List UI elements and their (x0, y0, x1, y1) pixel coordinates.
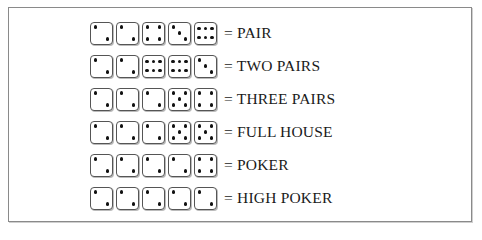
die-face-4-icon (142, 22, 165, 45)
pip (158, 60, 162, 64)
pip (184, 37, 188, 41)
die-face-4-icon (194, 154, 217, 177)
pip (152, 60, 156, 64)
hand-row: = TWO PAIRS (90, 54, 320, 78)
hand-label: = FULL HOUSE (224, 123, 333, 141)
pip (145, 69, 149, 73)
hand-row: = PAIR (90, 21, 272, 45)
die-face-5-icon (168, 88, 191, 111)
die-face-2-icon (142, 88, 165, 111)
die-face-2-icon (194, 187, 217, 210)
hand-row: = FULL HOUSE (90, 120, 333, 144)
pip (132, 202, 136, 206)
pip (120, 25, 124, 29)
pip (158, 136, 162, 140)
pip (198, 103, 202, 107)
pip (94, 91, 98, 95)
pip (210, 136, 214, 140)
pip (158, 103, 162, 107)
die-face-2-icon (90, 22, 113, 45)
die-face-3-icon (194, 55, 217, 78)
pip (172, 91, 176, 95)
die-face-2-icon (116, 154, 139, 177)
die-face-6-icon (194, 22, 217, 45)
pip (184, 124, 188, 128)
pip (204, 130, 208, 134)
die-face-5-icon (168, 121, 191, 144)
pip (198, 157, 202, 161)
hand-label: = TWO PAIRS (224, 57, 320, 75)
pip (210, 157, 214, 161)
pip (184, 169, 188, 173)
pip (146, 190, 150, 194)
pip (120, 157, 124, 161)
die-face-2-icon (90, 121, 113, 144)
pip (197, 27, 201, 31)
pip (106, 37, 110, 41)
pip (210, 36, 214, 40)
die-face-5-icon (194, 121, 217, 144)
hand-row: = POKER (90, 153, 289, 177)
pip (146, 25, 150, 29)
die-face-4-icon (194, 88, 217, 111)
die-face-6-icon (142, 55, 165, 78)
pip (198, 124, 202, 128)
die-face-2-icon (90, 88, 113, 111)
die-face-3-icon (168, 22, 191, 45)
pip (172, 190, 176, 194)
pip (158, 69, 162, 73)
pip (184, 60, 188, 64)
pip (204, 27, 208, 31)
pip (210, 169, 214, 173)
die-face-2-icon (142, 121, 165, 144)
pip (120, 91, 124, 95)
die-face-2-icon (116, 88, 139, 111)
hand-label: = POKER (224, 156, 289, 174)
pip (210, 91, 214, 95)
pip (171, 69, 175, 73)
die-face-6-icon (168, 55, 191, 78)
pip (198, 136, 202, 140)
pip (132, 103, 136, 107)
pip (172, 124, 176, 128)
pip (120, 190, 124, 194)
pip (184, 136, 188, 140)
pip (132, 169, 136, 173)
die-face-2-icon (116, 121, 139, 144)
pip (198, 190, 202, 194)
pip (172, 136, 176, 140)
pip (120, 58, 124, 62)
die-face-2-icon (116, 55, 139, 78)
pip (158, 169, 162, 173)
pip (120, 124, 124, 128)
pip (146, 91, 150, 95)
pip (197, 36, 201, 40)
pip (94, 58, 98, 62)
pip (172, 157, 176, 161)
die-face-2-icon (142, 154, 165, 177)
pip (198, 169, 202, 173)
die-face-2-icon (90, 187, 113, 210)
pip (94, 124, 98, 128)
hand-label: = THREE PAIRS (224, 90, 335, 108)
pip (106, 70, 110, 74)
hand-label: = PAIR (224, 24, 272, 42)
pip (158, 202, 162, 206)
die-face-2-icon (116, 22, 139, 45)
pip (152, 69, 156, 73)
pip (198, 58, 202, 62)
pip (184, 69, 188, 73)
pip (94, 25, 98, 29)
pip (210, 103, 214, 107)
pip (146, 157, 150, 161)
pip (178, 69, 182, 73)
pip (158, 37, 162, 41)
pip (210, 202, 214, 206)
pip (106, 103, 110, 107)
pip (172, 103, 176, 107)
die-face-2-icon (90, 55, 113, 78)
die-face-2-icon (116, 187, 139, 210)
pip (132, 37, 136, 41)
pip (146, 37, 150, 41)
pip (184, 103, 188, 107)
